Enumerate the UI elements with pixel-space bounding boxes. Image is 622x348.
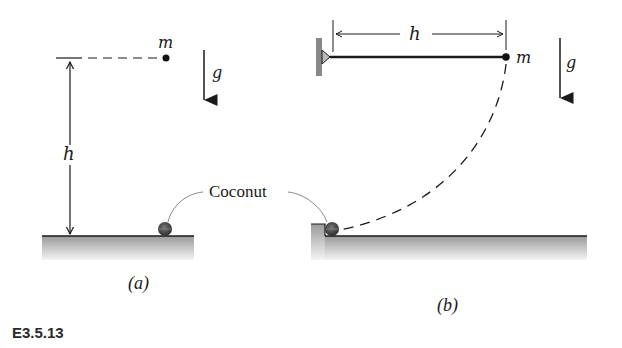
panel-tag-a: (a) [128, 273, 149, 294]
ledge-block [311, 224, 325, 260]
wall-support [316, 38, 322, 76]
gravity-label-a: g [212, 63, 222, 82]
figure: m h g (a) Coconut h m g [0, 0, 622, 348]
panel-tag-b: (b) [437, 295, 458, 316]
mass-label-a: m [158, 33, 173, 52]
coconut-leader-a [168, 192, 203, 222]
mass-point [163, 55, 170, 62]
coconut-callout: Coconut [168, 182, 327, 222]
swing-arc [340, 64, 506, 230]
panel-a: m h g (a) [42, 33, 222, 294]
panel-b: h m g (b) [311, 20, 587, 316]
figure-id: E3.5.13 [12, 324, 64, 341]
ground-b [325, 236, 587, 260]
pivot [322, 50, 330, 64]
height-label-a: h [63, 143, 75, 164]
coconut-label: Coconut [209, 182, 267, 201]
mass-label-b: m [516, 48, 531, 67]
gravity-label-b: g [566, 53, 576, 72]
length-label-b: h [409, 23, 421, 44]
mass-point-b [502, 53, 510, 61]
coconut-leader-b [288, 192, 327, 222]
ground-a [42, 236, 194, 260]
